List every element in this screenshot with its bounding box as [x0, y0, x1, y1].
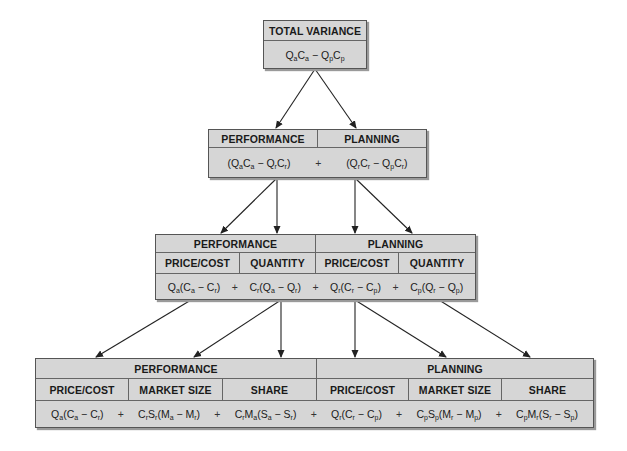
planning-market-size-header: MARKET SIZE [409, 379, 502, 400]
planning-share-header: SHARE [502, 379, 593, 400]
total-variance-box: TOTAL VARIANCE QaCa − QpCp [263, 20, 367, 69]
performance-header: PERFORMANCE [209, 130, 318, 147]
level2-formula: (QaCa − QrCr) + (QrCr − QpCr) [209, 148, 426, 178]
performance-price-cost-header-l4: PRICE/COST [36, 379, 129, 400]
planning-price-cost-header-l4: PRICE/COST [317, 379, 409, 400]
performance-market-size-header: MARKET SIZE [129, 379, 223, 400]
planning-quantity-header: QUANTITY [399, 253, 475, 273]
total-variance-formula: QaCa − QpCp [264, 41, 366, 69]
performance-share-header: SHARE [223, 379, 317, 400]
planning-header: PLANNING [318, 130, 426, 147]
level2-box: PERFORMANCE PLANNING (QaCa − QrCr) + (Qr… [208, 129, 427, 178]
performance-formula: (QaCa − QrCr) [227, 157, 290, 169]
total-variance-header: TOTAL VARIANCE [264, 21, 366, 40]
performance-group-header-l4: PERFORMANCE [36, 359, 317, 378]
planning-formula: (QrCr − QpCr) [346, 157, 407, 169]
level3-formula: Qa(Ca − Cr) + Cr(Qa − Qr) + Qr(Cr − Cp) … [156, 274, 475, 300]
planning-group-header: PLANNING [316, 235, 475, 252]
performance-group-header: PERFORMANCE [156, 235, 316, 252]
performance-quantity-header: QUANTITY [240, 253, 316, 273]
plus-operator: + [315, 157, 321, 169]
planning-price-cost-header: PRICE/COST [316, 253, 399, 273]
planning-group-header-l4: PLANNING [317, 359, 593, 378]
performance-price-cost-header: PRICE/COST [156, 253, 240, 273]
level3-box: PERFORMANCE PLANNING PRICE/COST QUANTITY… [155, 234, 476, 300]
level4-box: PERFORMANCE PLANNING PRICE/COST MARKET S… [35, 358, 594, 428]
level4-formula: Qa(Ca − Cr) + CrSr(Ma − Mr) + CrMa(Sa − … [36, 401, 593, 427]
